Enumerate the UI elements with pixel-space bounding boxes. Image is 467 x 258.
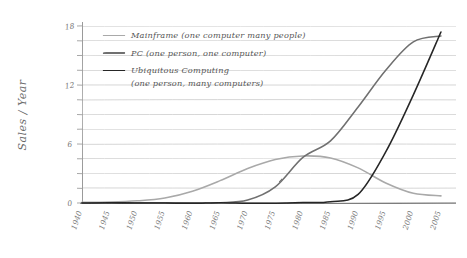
x-tick-label: 1990 (346, 210, 361, 231)
legend-label-line2: (one person, many computers) (131, 78, 263, 88)
x-tick-label: 1955 (152, 210, 167, 231)
legend-label: Ubiquitous Computing (131, 65, 229, 75)
y-tick-label: 12 (64, 80, 75, 90)
x-tick-label: 1950 (125, 210, 140, 231)
legend-label: Mainframe (one computer many people) (130, 30, 306, 40)
series-line-pc (82, 36, 441, 203)
data-series-group (82, 32, 441, 203)
y-tick-label: 18 (64, 21, 75, 31)
x-tick-label: 1975 (263, 210, 278, 231)
y-tick-marks-group (77, 26, 83, 203)
line-chart-svg: 061218 194019451950195519601965197019751… (0, 0, 467, 258)
x-tick-label: 1960 (180, 210, 195, 231)
chart-container: 061218 194019451950195519601965197019751… (0, 0, 467, 258)
x-tick-label: 2000 (400, 210, 415, 232)
x-tick-label: 1980 (290, 210, 305, 231)
chart-legend: Mainframe (one computer many people)PC (… (104, 30, 306, 88)
legend-label: PC (one person, one computer) (130, 48, 266, 58)
x-tick-label: 1965 (208, 210, 223, 231)
y-axis-title: Sales / Year (16, 79, 29, 150)
y-tick-label: 6 (67, 140, 73, 150)
x-tick-label: 1985 (318, 210, 333, 231)
series-line-ubiquitous-computing (82, 32, 441, 203)
x-tick-label: 1970 (235, 210, 250, 231)
x-tick-label: 2005 (428, 210, 443, 232)
y-tick-labels-group: 061218 (64, 21, 75, 208)
x-tick-label: 1995 (373, 210, 388, 231)
x-tick-label: 1945 (97, 210, 112, 231)
x-tick-labels-group: 1940194519501955196019651970197519801985… (69, 210, 442, 232)
x-tick-label: 1940 (69, 210, 84, 231)
y-tick-label: 0 (67, 199, 73, 209)
